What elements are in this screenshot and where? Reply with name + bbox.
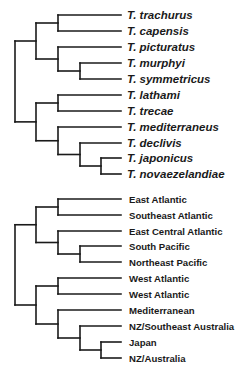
- region-label: East Atlantic: [129, 194, 187, 205]
- species-label: T. capensis: [127, 25, 189, 37]
- species-label: T. murphyi: [127, 57, 186, 69]
- region-label: East Central Atlantic: [129, 226, 223, 237]
- region-label: Mediterranean: [129, 305, 195, 316]
- species-label: T. symmetricus: [127, 73, 211, 85]
- region-label: Japan: [129, 337, 157, 348]
- region-label: West Atlantic: [129, 289, 190, 300]
- region-label: South Pacific: [129, 241, 190, 252]
- region-label: West Atlantic: [129, 273, 190, 284]
- phylogenetic-diagram: T. trachurusT. capensisT. picturatusT. m…: [0, 0, 248, 373]
- species-label: T. lathami: [127, 89, 181, 101]
- region-label: NZ/Australia: [129, 353, 186, 364]
- species-label: T. trachurus: [127, 9, 193, 21]
- region-label: Northeast Pacific: [129, 257, 208, 268]
- region-label: Southeast Atlantic: [129, 210, 214, 221]
- region-tree: East AtlanticSoutheast AtlanticEast Cent…: [15, 194, 235, 364]
- species-label: T. declivis: [127, 137, 182, 149]
- species-label: T. mediterraneus: [127, 121, 219, 133]
- region-label: NZ/Southeast Australia: [129, 321, 235, 332]
- species-label: T. japonicus: [127, 152, 193, 164]
- species-label: T. novaezelandiae: [127, 168, 225, 180]
- species-label: T. picturatus: [127, 41, 195, 53]
- species-label: T. trecae: [127, 105, 174, 117]
- species-tree: T. trachurusT. capensisT. picturatusT. m…: [15, 9, 225, 180]
